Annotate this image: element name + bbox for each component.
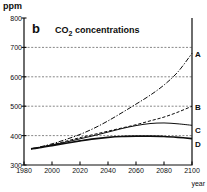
plot-area — [0, 0, 207, 192]
data-curves — [31, 53, 192, 149]
curve-d — [31, 136, 192, 149]
axis-ticks — [22, 18, 193, 165]
curve-a — [31, 53, 192, 149]
co2-concentrations-figure: ppm 800 700 600 500 400 300 1980 2000 20… — [0, 0, 207, 192]
curve-b — [31, 106, 192, 149]
axis-frame — [24, 18, 192, 165]
gridlines — [24, 47, 192, 135]
